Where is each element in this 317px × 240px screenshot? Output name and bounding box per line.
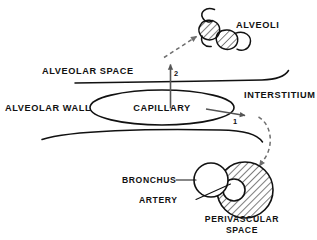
alveoli-label: ALVEOLI <box>236 20 279 30</box>
artery-label: ARTERY <box>139 195 178 205</box>
capillary-label: CAPILLARY <box>133 103 191 113</box>
interstitium-boundary <box>42 130 263 142</box>
perivascular-space-label-line2: SPACE <box>226 225 258 235</box>
bronchus-circle <box>194 163 228 197</box>
perivascular-space-label-line1: PERIVASCULAR <box>205 214 280 224</box>
flow-1-dashed-arrow <box>259 117 271 166</box>
alveolar-wall-label: ALVEOLAR WALL <box>5 103 91 113</box>
marker-2-label: 2 <box>174 69 178 78</box>
anatomical-diagram: ALVEOLI ALVEOLAR SPACE INTERSTITIUM CAPI… <box>0 0 317 240</box>
alveoli-cluster: ALVEOLI <box>199 9 279 51</box>
flow-path-1: 1 <box>206 109 270 166</box>
alveolar-space-label: ALVEOLAR SPACE <box>42 66 134 76</box>
flow-path-2: 2 <box>164 37 197 109</box>
interstitium-label: INTERSTITIUM <box>244 90 316 100</box>
diagram-root: ALVEOLI ALVEOLAR SPACE INTERSTITIUM CAPI… <box>0 0 317 240</box>
flow-1-solid-arrow <box>206 109 245 116</box>
bronchus-label: BRONCHUS <box>122 175 176 185</box>
flow-2-dashed-arrow <box>164 37 197 58</box>
capillary-structure: CAPILLARY <box>90 90 234 125</box>
marker-1-label: 1 <box>233 117 237 126</box>
